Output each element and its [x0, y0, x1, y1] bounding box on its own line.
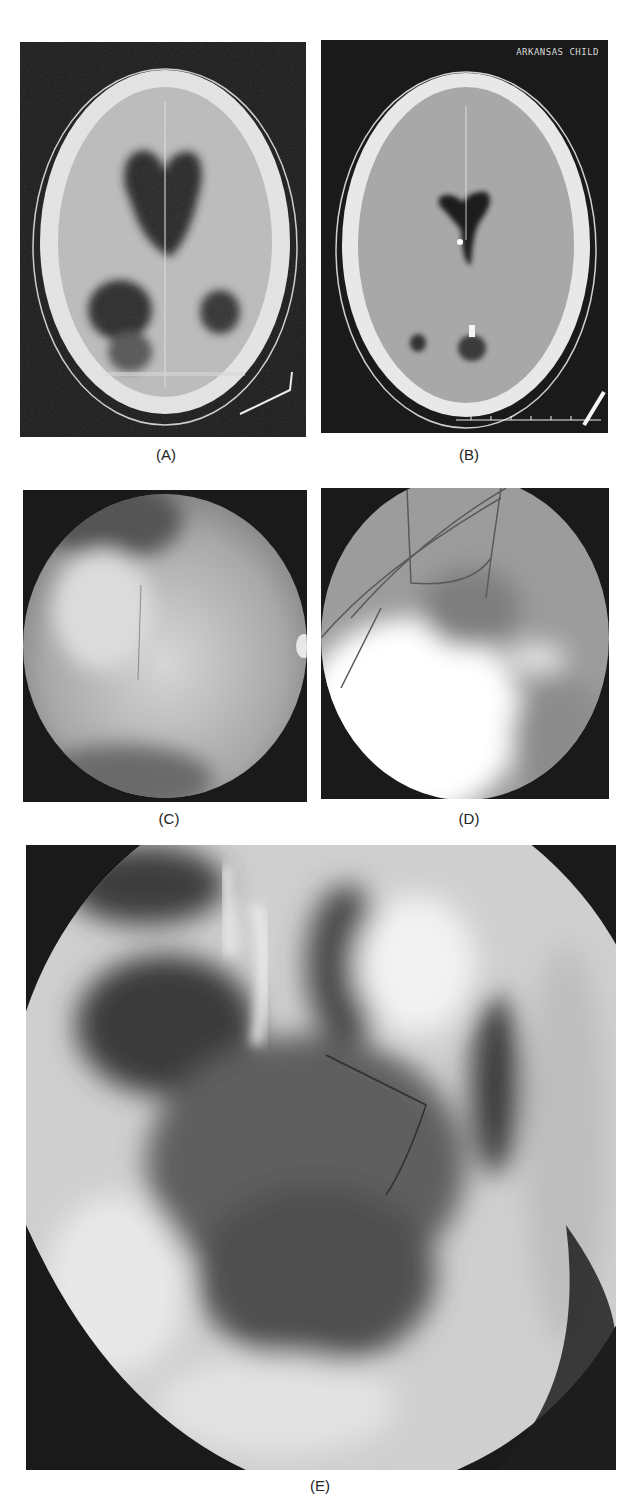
- panel-a-ct-scan: [20, 42, 306, 437]
- panel-c-endoscopic-view: [23, 490, 307, 802]
- panel-d-label: (D): [449, 810, 489, 827]
- ct-scan-a-image: [20, 42, 306, 437]
- endoscopic-d-image: [321, 488, 609, 799]
- endoscopic-c-image: [23, 490, 307, 802]
- panel-b-label: (B): [449, 446, 489, 463]
- panel-e-endoscopic-view: [26, 845, 616, 1470]
- panel-d-endoscopic-view: [321, 488, 609, 799]
- panel-a-label: (A): [146, 446, 186, 463]
- scan-watermark-text: ARKANSAS CHILD: [516, 47, 599, 57]
- endoscopic-e-image: [26, 845, 616, 1470]
- ct-scan-b-image: [321, 40, 608, 433]
- panel-b-ct-scan: ARKANSAS CHILD: [321, 40, 608, 433]
- panel-c-label: (C): [149, 810, 189, 827]
- panel-e-label: (E): [300, 1477, 340, 1494]
